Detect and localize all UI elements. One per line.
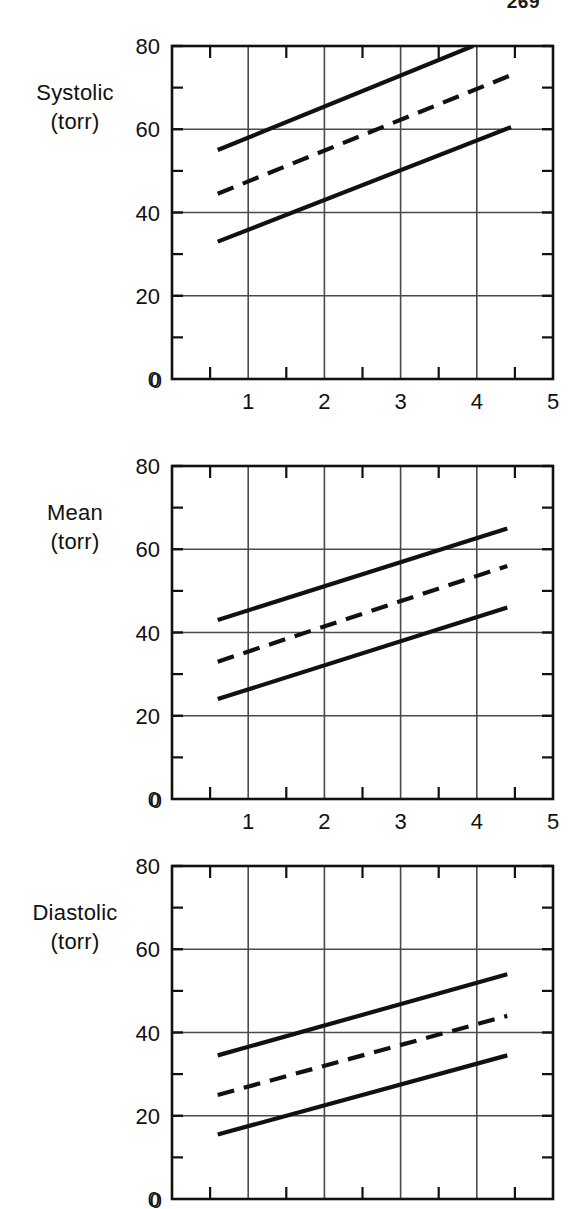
series-line-mean-regression (218, 75, 511, 194)
y-tick-label: 80 (136, 854, 160, 879)
tick-labels: 020406080012345 (136, 854, 560, 1209)
y-tick-label: 20 (136, 1104, 160, 1129)
chart-panel-diastolic: Diastolic(torr)020406080012345 (0, 820, 574, 1209)
series-line-upper-limit (218, 974, 508, 1055)
x-tick-label: 0 (150, 368, 162, 393)
y-tick-label: 40 (136, 201, 160, 226)
y-tick-label: 20 (136, 284, 160, 309)
gridlines (172, 46, 553, 379)
series-line-upper-limit (218, 46, 473, 150)
series-line-lower-limit (218, 1055, 508, 1134)
series-line-upper-limit (218, 528, 508, 620)
figure-page: 269 Systolic(torr)020406080012345Mean(to… (0, 0, 574, 1209)
x-tick-label: 3 (394, 389, 406, 414)
x-tick-label: 0 (150, 788, 162, 813)
data-series-group (218, 528, 508, 699)
series-line-lower-limit (218, 127, 511, 241)
series-line-mean-regression (218, 566, 508, 662)
gridlines (172, 866, 553, 1199)
y-tick-label: 60 (136, 117, 160, 142)
plot-area: 020406080012345 (0, 820, 574, 1209)
x-tick-label: 2 (318, 389, 330, 414)
y-tick-label: 60 (136, 937, 160, 962)
chart-panel-systolic: Systolic(torr)020406080012345 (0, 0, 574, 420)
x-tick-label: 5 (547, 389, 559, 414)
y-tick-label: 60 (136, 537, 160, 562)
series-line-mean-regression (218, 1016, 508, 1095)
tick-labels: 020406080012345 (136, 454, 560, 834)
data-series-group (218, 974, 508, 1134)
y-tick-label: 40 (136, 1021, 160, 1046)
chart-panel-mean: Mean(torr)020406080012345 (0, 420, 574, 820)
y-tick-label: 20 (136, 704, 160, 729)
x-tick-label: 4 (471, 389, 483, 414)
y-tick-label: 80 (136, 34, 160, 59)
gridlines (172, 466, 553, 799)
tick-labels: 020406080012345 (136, 34, 560, 414)
y-tick-label: 80 (136, 454, 160, 479)
series-line-lower-limit (218, 608, 508, 700)
y-tick-label: 40 (136, 621, 160, 646)
x-tick-label: 1 (242, 389, 254, 414)
x-tick-label: 0 (150, 1188, 162, 1209)
plot-area: 020406080012345 (0, 0, 574, 420)
plot-area: 020406080012345 (0, 420, 574, 820)
